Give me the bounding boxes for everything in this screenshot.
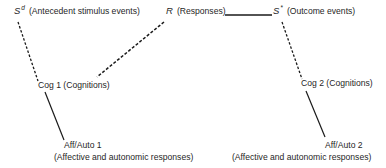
edge-cog2-to-aff2 <box>306 91 325 137</box>
node-sstar-label: (Outcome events) <box>287 6 355 16</box>
edge-r-to-cog1 <box>97 22 164 77</box>
node-aff2-title: Aff/Auto 2 <box>325 140 363 150</box>
edge-sstar-to-cog2 <box>282 22 302 79</box>
node-antecedent-stimulus: Sd(Antecedent stimulus events) <box>14 6 140 17</box>
node-responses: R(Responses) <box>166 6 226 16</box>
behavior-cognition-diagram: Sd(Antecedent stimulus events) R(Respons… <box>0 0 386 168</box>
edge-cog1-to-aff1 <box>45 92 64 140</box>
node-aff1-label: (Affective and autonomic responses) <box>54 152 193 162</box>
node-cog2: Cog 2 (Cognitions) <box>301 78 373 88</box>
node-outcome-events: S*(Outcome events) <box>273 6 355 17</box>
node-sd-symbol: S <box>14 5 20 16</box>
node-aff-auto2-title: Aff/Auto 2 <box>325 140 363 150</box>
node-cog2-label: Cog 2 (Cognitions) <box>301 78 373 88</box>
edge-sd-to-cog1 <box>18 22 38 81</box>
node-aff-auto1-title: Aff/Auto 1 <box>64 140 102 150</box>
node-sd-label: (Antecedent stimulus events) <box>29 6 140 16</box>
node-aff1-title: Aff/Auto 1 <box>64 140 102 150</box>
node-r-symbol: R <box>166 5 173 16</box>
node-sstar-symbol: S <box>273 5 279 16</box>
node-aff-auto1-desc: (Affective and autonomic responses) <box>54 152 193 162</box>
node-cog1-label: Cog 1 (Cognitions) <box>38 80 110 90</box>
node-sstar-superscript: * <box>280 4 283 11</box>
node-sd-superscript: d <box>21 4 25 11</box>
node-cog1: Cog 1 (Cognitions) <box>38 80 110 90</box>
node-aff2-label: (Affective and autonomic responses) <box>232 152 371 162</box>
node-aff-auto2-desc: (Affective and autonomic responses) <box>232 152 371 162</box>
node-r-label: (Responses) <box>177 6 226 16</box>
